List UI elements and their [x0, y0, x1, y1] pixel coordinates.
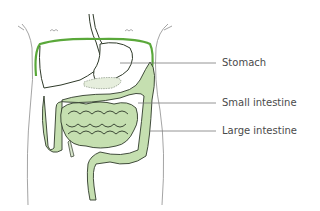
small-intestine [61, 102, 138, 148]
label-large-intestine: Large intestine [222, 125, 297, 137]
stomach [94, 43, 133, 82]
label-stomach: Stomach [222, 57, 266, 69]
label-small-intestine: Small intestine [222, 97, 297, 109]
pancreas [84, 78, 121, 89]
